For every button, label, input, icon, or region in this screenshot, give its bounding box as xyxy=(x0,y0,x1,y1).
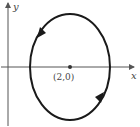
diagram-canvas xyxy=(0,0,140,127)
ellipse-diagram: y x (2,0) xyxy=(0,0,140,127)
x-axis-label: x xyxy=(131,71,137,81)
center-point xyxy=(68,65,72,69)
y-axis-label: y xyxy=(13,2,19,12)
direction-arrow-icon xyxy=(37,27,46,38)
center-label: (2,0) xyxy=(53,73,74,82)
